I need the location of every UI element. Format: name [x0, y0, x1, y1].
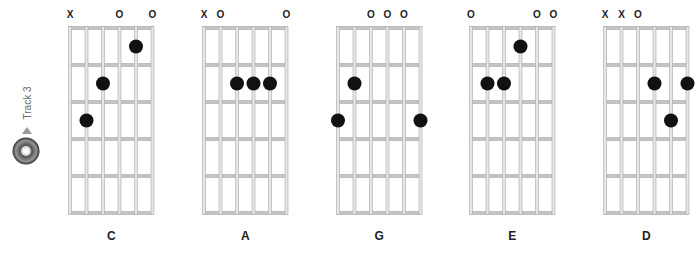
chord-name: D [596, 229, 696, 243]
string-line [219, 27, 222, 215]
cd-icon [12, 137, 40, 165]
chord-diagram-c: XOOC [62, 0, 162, 256]
finger-dot [247, 77, 261, 91]
open-string-marker: O [531, 9, 543, 20]
fret-line [604, 64, 689, 67]
fret-line [604, 101, 689, 104]
string-line [470, 27, 473, 215]
string-line [503, 27, 506, 215]
open-string-marker: O [281, 9, 293, 20]
chord-diagram-e: OOOE [463, 0, 563, 256]
string-line [203, 27, 206, 215]
fret-line [203, 212, 288, 215]
fret-line [337, 27, 422, 30]
string-line [486, 27, 489, 215]
string-line [552, 27, 555, 215]
fret-line [337, 175, 422, 178]
finger-dot [263, 77, 277, 91]
fretboard-grid [463, 0, 573, 256]
play-arrow-icon [22, 127, 32, 134]
fret-line [470, 101, 555, 104]
fret-line [470, 138, 555, 141]
string-line [686, 27, 689, 215]
open-string-marker: O [382, 9, 394, 20]
finger-dot [648, 77, 662, 91]
muted-string-marker: X [64, 9, 76, 20]
finger-dot [514, 40, 528, 54]
fret-line [604, 212, 689, 215]
fret-line [337, 138, 422, 141]
finger-dot [331, 114, 345, 128]
open-string-marker: O [147, 9, 159, 20]
muted-string-marker: X [616, 9, 628, 20]
fret-line [203, 64, 288, 67]
string-line [102, 27, 105, 215]
string-line [69, 27, 72, 215]
track-label: Track 3 [22, 87, 33, 120]
string-line [604, 27, 607, 215]
fretboard-grid [196, 0, 306, 256]
fret-line [69, 212, 154, 215]
track-indicator: Track 3 [8, 78, 42, 164]
fret-line [470, 212, 555, 215]
string-line [536, 27, 539, 215]
fret-line [337, 212, 422, 215]
string-line [236, 27, 239, 215]
string-line [252, 27, 255, 215]
string-line [653, 27, 656, 215]
open-string-marker: O [398, 9, 410, 20]
finger-dot [497, 77, 511, 91]
string-line [620, 27, 623, 215]
string-line [135, 27, 138, 215]
string-line [285, 27, 288, 215]
fretboard-grid [62, 0, 172, 256]
string-line [353, 27, 356, 215]
open-string-marker: O [465, 9, 477, 20]
chord-name: G [329, 229, 429, 243]
fret-line [604, 138, 689, 141]
muted-string-marker: X [599, 9, 611, 20]
finger-dot [348, 77, 362, 91]
fret-line [604, 27, 689, 30]
chord-diagram-a: XOOA [196, 0, 296, 256]
string-line [151, 27, 154, 215]
open-string-marker: O [215, 9, 227, 20]
open-string-marker: O [632, 9, 644, 20]
finger-dot [80, 114, 94, 128]
open-string-marker: O [548, 9, 560, 20]
open-string-marker: O [365, 9, 377, 20]
open-string-marker: O [114, 9, 126, 20]
fret-line [470, 27, 555, 30]
string-line [118, 27, 121, 215]
finger-dot [414, 114, 428, 128]
string-line [519, 27, 522, 215]
chord-diagram-g: OOOG [330, 0, 430, 256]
chord-name: A [195, 229, 295, 243]
finger-dot [129, 40, 143, 54]
fret-line [69, 175, 154, 178]
fret-line [203, 101, 288, 104]
fret-line [337, 101, 422, 104]
fretboard-grid [330, 0, 440, 256]
fret-line [69, 64, 154, 67]
fret-line [203, 175, 288, 178]
fret-line [69, 101, 154, 104]
string-line [386, 27, 389, 215]
finger-dot [230, 77, 244, 91]
string-line [637, 27, 640, 215]
chord-diagram-d: XXOD [597, 0, 697, 256]
muted-string-marker: X [198, 9, 210, 20]
fret-line [203, 27, 288, 30]
fret-line [69, 27, 154, 30]
fret-line [203, 138, 288, 141]
finger-dot [481, 77, 495, 91]
finger-dot [96, 77, 110, 91]
fret-line [470, 175, 555, 178]
string-line [269, 27, 272, 215]
fret-line [69, 138, 154, 141]
chord-name: C [61, 229, 161, 243]
fret-line [604, 175, 689, 178]
string-line [403, 27, 406, 215]
finger-dot [681, 77, 695, 91]
finger-dot [664, 114, 678, 128]
